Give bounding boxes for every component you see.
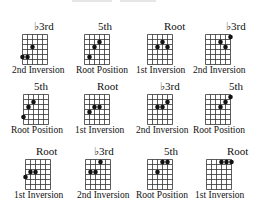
fretboard-grid bbox=[205, 34, 230, 64]
finger-dot bbox=[224, 160, 229, 165]
fretboard-grid bbox=[25, 159, 50, 189]
fretboard-svg bbox=[205, 34, 231, 65]
finger-dot bbox=[21, 115, 26, 120]
interval-label: Root bbox=[164, 20, 185, 32]
finger-dot bbox=[165, 45, 170, 50]
finger-dot bbox=[155, 170, 160, 175]
finger-dot bbox=[87, 110, 92, 115]
finger-dot bbox=[23, 175, 28, 180]
finger-dot bbox=[229, 160, 234, 165]
finger-dot bbox=[97, 40, 102, 45]
cropped-title-fragment bbox=[72, 0, 172, 4]
fretboard-grid bbox=[22, 34, 47, 64]
interval-label: ♭3rd bbox=[226, 20, 246, 32]
finger-dot bbox=[218, 105, 223, 110]
finger-dot bbox=[223, 100, 228, 105]
finger-dot bbox=[92, 45, 97, 50]
chord-diagram: 5th Root Position bbox=[72, 20, 134, 84]
fretboard-grid bbox=[84, 34, 109, 64]
finger-dot bbox=[219, 160, 224, 165]
finger-dot bbox=[88, 170, 93, 175]
fretboard-grid bbox=[84, 94, 109, 124]
inversion-caption: Root Position bbox=[76, 65, 128, 76]
inversion-caption: 2nd Inversion bbox=[77, 190, 130, 201]
inversion-caption: 1st Inversion bbox=[14, 190, 63, 201]
finger-dot bbox=[155, 45, 160, 50]
finger-dot bbox=[92, 105, 97, 110]
finger-dot bbox=[25, 55, 30, 60]
fretboard-svg bbox=[22, 34, 48, 65]
fretboard-svg bbox=[25, 159, 51, 190]
fretboard-grid bbox=[206, 159, 231, 189]
chord-diagram: ♭3rd 2nd Inversion bbox=[134, 80, 196, 144]
chord-diagram: 5th Root Position bbox=[134, 145, 196, 204]
chord-diagram: Root 1st Inversion bbox=[193, 145, 254, 204]
fretboard-grid bbox=[205, 94, 230, 124]
fretboard-svg bbox=[23, 94, 49, 125]
fretboard-svg bbox=[85, 159, 111, 190]
finger-dot bbox=[98, 160, 103, 165]
chord-diagram: Root 1st Inversion bbox=[134, 20, 196, 84]
inversion-caption: 1st Inversion bbox=[75, 125, 124, 136]
fretboard-grid bbox=[147, 94, 172, 124]
finger-dot bbox=[228, 35, 233, 40]
finger-dot bbox=[87, 55, 92, 60]
fretboard-svg bbox=[147, 94, 173, 125]
inversion-caption: Root Position bbox=[193, 125, 245, 136]
fretboard-svg bbox=[205, 94, 231, 125]
inversion-caption: Root Position bbox=[136, 190, 188, 201]
interval-label: ♭3rd bbox=[94, 145, 114, 157]
interval-label: ♭3rd bbox=[34, 20, 54, 32]
finger-dot bbox=[160, 105, 165, 110]
finger-dot bbox=[218, 40, 223, 45]
chord-diagram: ♭3rd 2nd Inversion bbox=[72, 145, 134, 204]
inversion-caption: 2nd Inversion bbox=[136, 125, 189, 136]
fretboard-svg bbox=[84, 94, 110, 125]
fretboard-grid bbox=[85, 159, 110, 189]
fretboard-svg bbox=[84, 34, 110, 65]
interval-label: Root bbox=[97, 80, 118, 92]
finger-dot bbox=[160, 160, 165, 165]
finger-dot bbox=[165, 160, 170, 165]
fretboard-grid bbox=[147, 34, 172, 64]
chord-diagram: 5th Root Position bbox=[8, 80, 70, 144]
finger-dot bbox=[223, 45, 228, 50]
fretboard-grid bbox=[23, 94, 48, 124]
finger-dot bbox=[20, 55, 25, 60]
inversion-caption: Root Position bbox=[11, 125, 63, 136]
finger-dot bbox=[26, 105, 31, 110]
finger-dot bbox=[31, 100, 36, 105]
chord-diagram: ♭3rd 2nd Inversion bbox=[8, 20, 70, 84]
chord-diagram: 5th Root Position bbox=[193, 80, 254, 144]
finger-dot bbox=[165, 100, 170, 105]
finger-dot bbox=[28, 170, 33, 175]
inversion-caption: 2nd Inversion bbox=[12, 65, 65, 76]
interval-label: ♭3rd bbox=[160, 80, 180, 92]
finger-dot bbox=[93, 170, 98, 175]
interval-label: 5th bbox=[164, 145, 178, 157]
finger-dot bbox=[33, 170, 38, 175]
fretboard-svg bbox=[147, 159, 173, 190]
interval-label: Root bbox=[36, 145, 57, 157]
interval-label: Root bbox=[227, 145, 248, 157]
interval-label: 5th bbox=[229, 80, 243, 92]
finger-dot bbox=[155, 105, 160, 110]
interval-label: 5th bbox=[34, 80, 48, 92]
finger-dot bbox=[97, 105, 102, 110]
inversion-caption: 1st Inversion bbox=[136, 65, 185, 76]
fretboard-grid bbox=[147, 159, 172, 189]
finger-dot bbox=[30, 45, 35, 50]
chord-diagram: ♭3rd 2nd Inversion bbox=[193, 20, 254, 84]
finger-dot bbox=[228, 95, 233, 100]
chord-diagram: Root 1st Inversion bbox=[8, 145, 70, 204]
fretboard-svg bbox=[206, 159, 232, 190]
fretboard-svg bbox=[147, 34, 173, 65]
inversion-caption: 2nd Inversion bbox=[193, 65, 246, 76]
inversion-caption: 1st Inversion bbox=[195, 190, 244, 201]
finger-dot bbox=[160, 40, 165, 45]
chord-diagram: Root 1st Inversion bbox=[72, 80, 134, 144]
interval-label: 5th bbox=[98, 20, 112, 32]
